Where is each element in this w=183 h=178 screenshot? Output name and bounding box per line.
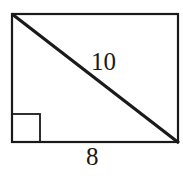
diagonal-line bbox=[12, 14, 179, 143]
bottom-side-label: 8 bbox=[86, 143, 99, 170]
right-angle-marker bbox=[12, 114, 40, 142]
diagram: 10 8 bbox=[0, 0, 183, 178]
diagonal-label: 10 bbox=[91, 48, 116, 75]
